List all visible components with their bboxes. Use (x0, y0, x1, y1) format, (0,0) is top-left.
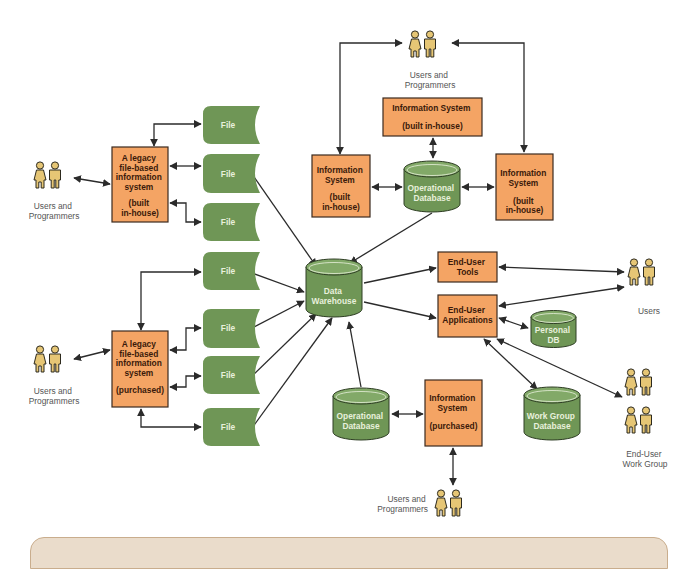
operational-db-top: Operational Database (404, 161, 460, 212)
file-label: File (221, 169, 236, 179)
svg-text:Operational Database: Operational Database (408, 183, 457, 203)
info-system-top-center: Information System (built in-house) (383, 98, 482, 136)
file-label: File (221, 323, 236, 333)
file-label: File (221, 120, 236, 130)
end-user-tools: End-User Tools (438, 252, 497, 282)
actor-users-programmers-left-bottom: Users and Programmers (29, 346, 80, 406)
file-label: File (221, 370, 236, 380)
actor-users-right: Users (628, 259, 660, 316)
svg-text:Users and Programmers: Users and Programmers (29, 386, 80, 406)
file-shapes: File File File File File File File (203, 106, 260, 446)
svg-text:Users: Users (638, 306, 660, 316)
people-icon (628, 259, 655, 285)
data-warehouse-db: Data Warehouse (306, 259, 362, 317)
operational-db-bottom: Operational Database (333, 388, 389, 440)
file-label: File (221, 422, 236, 432)
file-2: File (203, 154, 260, 193)
file-4: File (203, 252, 260, 290)
svg-text:Users and Programmers: Users and Programmers (377, 494, 428, 514)
people-icon (34, 162, 61, 188)
people-icon (625, 369, 652, 395)
svg-text:A legacy file-based: A legacy file-based information system (… (116, 339, 164, 395)
legacy-system-inhouse: A legacy file-based information system (… (112, 147, 168, 222)
actor-users-programmers-bottom: Users and Programmers (377, 490, 461, 516)
svg-text:Operational Database: Operational Database (337, 411, 386, 431)
file-5: File (203, 309, 260, 348)
file-1: File (203, 106, 260, 144)
caption-panel (30, 537, 668, 569)
people-icon (34, 346, 61, 372)
svg-text:End-User Work Group: End-User Work Group (623, 449, 668, 469)
svg-text:Users and Programmers: Users and Programmers (29, 201, 80, 221)
people-icon (435, 490, 462, 516)
svg-text:Work Group Database: Work Group Database (527, 411, 578, 431)
legacy-system-purchased: A legacy file-based information system (… (112, 331, 168, 407)
file-label: File (221, 266, 236, 276)
people-icon (625, 407, 652, 433)
info-system-purchased: Information System (purchased) (425, 380, 482, 446)
personal-db: Personal DB (531, 311, 576, 348)
file-6: File (203, 356, 260, 394)
actor-users-programmers-left-top: Users and Programmers (29, 162, 80, 221)
file-3: File (203, 203, 260, 241)
svg-text:End-User Applications: End-User Applications (442, 305, 493, 325)
actor-end-user-work-group: End-User Work Group (623, 369, 668, 469)
end-user-applications: End-User Applications (438, 295, 497, 337)
work-group-db: Work Group Database (524, 387, 580, 440)
svg-text:Users and Programmers: Users and Programmers (405, 70, 456, 90)
file-label: File (221, 217, 236, 227)
people-icon (409, 31, 436, 57)
file-7: File (203, 408, 260, 446)
actor-users-programmers-top: Users and Programmers (405, 31, 456, 90)
info-system-right: Information System (built in-house) (496, 154, 553, 220)
info-system-left: Information System (built in-house) (312, 155, 370, 217)
